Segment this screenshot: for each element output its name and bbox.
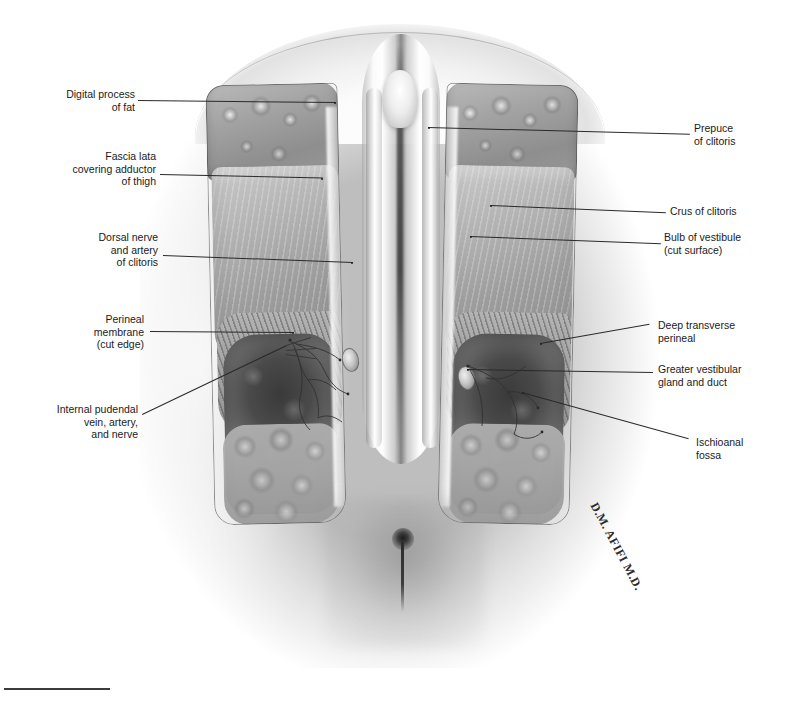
- label-greater-vestibular: Greater vestibular gland and duct: [658, 363, 788, 388]
- leader-endpoint-dorsal-nerve-artery: [351, 262, 353, 264]
- label-digital-process-of-fat: Digital process of fat: [10, 88, 135, 113]
- label-perineal-membrane: Perineal membrane (cut edge): [10, 313, 144, 351]
- leader-endpoint-ischioanal-fossa: [522, 392, 524, 394]
- right-pudendal-vessels: [450, 348, 580, 478]
- anus: [392, 528, 414, 550]
- left-labium: [366, 88, 382, 448]
- bottom-rule: [4, 688, 110, 690]
- leader-endpoint-greater-vestibular: [467, 369, 469, 371]
- leader-endpoint-prepuce-of-clitoris: [428, 127, 430, 129]
- right-labium: [422, 88, 438, 448]
- leader-endpoint-digital-process-of-fat: [334, 102, 336, 104]
- label-internal-pudendal: Internal pudendal vein, artery, and nerv…: [10, 403, 138, 441]
- leader-endpoint-fascia-lata: [321, 178, 323, 180]
- perineal-body-shading: [325, 498, 485, 648]
- leader-endpoint-crus-of-clitoris: [490, 205, 492, 207]
- left-dissection-flap: [205, 83, 346, 526]
- illustration-canvas: [150, 18, 650, 668]
- label-fascia-lata: Fascia lata covering adductor of thigh: [10, 150, 156, 188]
- anatomical-plate: Digital process of fat Fascia lata cover…: [0, 0, 793, 704]
- label-bulb-of-vestibule: Bulb of vestibule (cut surface): [664, 231, 790, 256]
- label-ischioanal-fossa: Ischioanal fossa: [696, 436, 788, 461]
- label-deep-transverse-perineal: Deep transverse perineal: [658, 319, 786, 344]
- leader-endpoint-bulb-of-vestibule: [470, 236, 472, 238]
- label-prepuce-of-clitoris: Prepuce of clitoris: [694, 122, 790, 147]
- leader-endpoint-perineal-membrane: [292, 332, 294, 334]
- leader-endpoint-deep-transverse-perineal: [540, 343, 542, 345]
- label-crus-of-clitoris: Crus of clitoris: [670, 205, 788, 218]
- label-dorsal-nerve-artery: Dorsal nerve and artery of clitoris: [10, 231, 158, 269]
- clitoral-prepuce: [382, 70, 418, 128]
